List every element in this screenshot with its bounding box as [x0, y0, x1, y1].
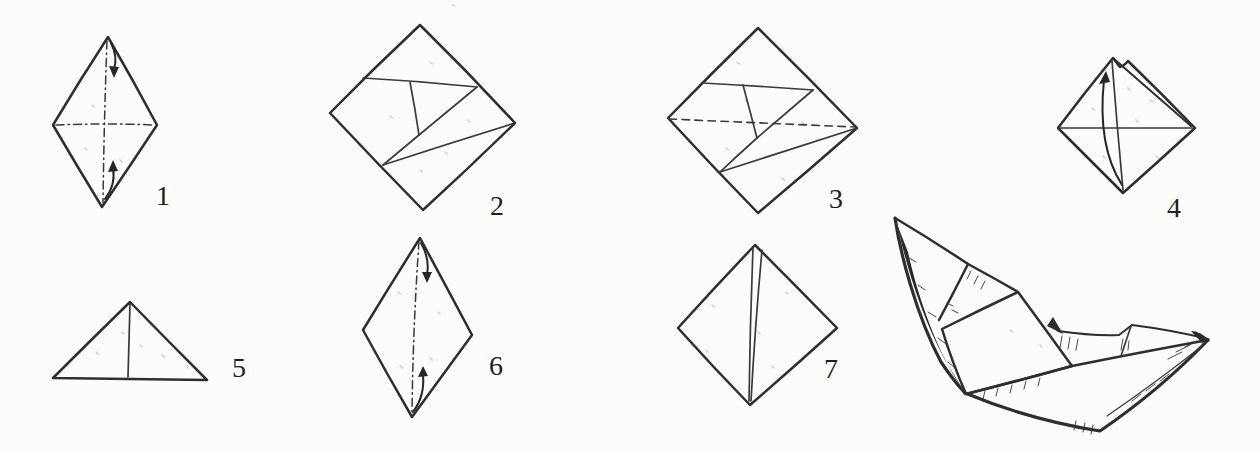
far-gunwale-edge: [1058, 325, 1208, 339]
finished-paper-boat: [895, 218, 1209, 434]
paper-outline: [678, 245, 837, 405]
step-5-diagram: 5: [53, 302, 246, 383]
bow-flap-right-edge: [968, 264, 1018, 292]
center-seam-line: [128, 304, 130, 377]
step-3-diagram: 3: [668, 28, 857, 214]
origami-diagram: 1 2 3 4: [0, 0, 1260, 452]
step-2-label: 2: [490, 190, 504, 221]
cabin-flap: [942, 292, 1072, 394]
paper-outline: [330, 25, 515, 210]
center-slit-seam: [749, 248, 762, 401]
step-7-label: 7: [824, 353, 838, 384]
vertical-crease-dashdot: [103, 41, 107, 203]
bow-flap-left-edge: [939, 264, 968, 320]
step-4-label: 4: [1167, 192, 1181, 223]
step-6-diagram: 6: [363, 238, 503, 417]
layer-edge-line: [1113, 58, 1191, 126]
step-2-diagram: 2: [330, 25, 515, 221]
step-1-label: 1: [156, 180, 170, 211]
paper-outline: [53, 37, 157, 207]
step-1-diagram: 1: [53, 37, 170, 211]
origami-diagram-canvas: 1 2 3 4: [0, 0, 1260, 452]
fold-seam-lines: [363, 78, 515, 165]
vertical-crease-dashdot: [412, 241, 419, 413]
fold-arrow-down: [109, 43, 119, 78]
paper-outline: [1058, 58, 1195, 193]
step-6-label: 6: [489, 350, 503, 381]
fold-line-dashed: [669, 119, 855, 127]
step-7-diagram: 7: [678, 245, 838, 405]
step-3-label: 3: [829, 183, 843, 214]
step-5-label: 5: [232, 352, 246, 383]
fold-seam-lines: [702, 83, 857, 172]
step-4-diagram: 4: [1058, 58, 1195, 223]
